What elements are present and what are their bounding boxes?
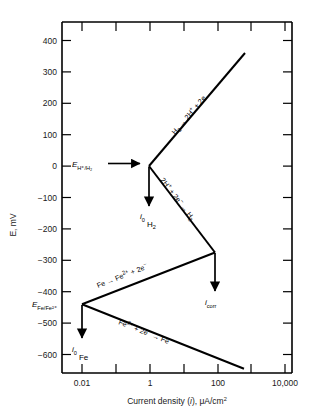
y-tick-label: −100 xyxy=(38,193,57,203)
y-tick-label: 200 xyxy=(43,98,57,108)
curve-label-h2-oxidation: H2 → 2H+ + 2e xyxy=(169,93,209,137)
x-axis-ticks xyxy=(82,364,285,373)
label-e-hydrogen: EH⁺/H₂ xyxy=(72,160,92,171)
curve-label-h2-reduction: 2H+ + 2e− → H2 xyxy=(158,175,198,223)
i0-h2-sub: 0 xyxy=(142,217,145,223)
curve-label-fe-oxidation: Fe → Fe2+ + 2e− xyxy=(95,261,149,290)
x-axis-title-main: Current density ( xyxy=(127,396,190,406)
y-tick-label: 300 xyxy=(43,67,57,77)
e-hydrogen-sub: H⁺/H₂ xyxy=(77,165,92,171)
x-tick-label: 100 xyxy=(211,378,225,388)
x-axis-title-sup: 2 xyxy=(224,396,227,402)
label-e-iron: EFe/Fe²⁺ xyxy=(32,300,57,311)
i0-h2-species-sub: 2 xyxy=(153,224,156,230)
polarization-plot-svg: 400 300 200 100 0 −100 −200 −300 −400 −5… xyxy=(0,0,310,417)
i0-fe-species: Fe xyxy=(79,353,89,362)
i0-fe-sub: 0 xyxy=(74,350,77,356)
label-i0-h2: i0H2 xyxy=(140,212,156,230)
y-tick-label: −400 xyxy=(38,287,57,297)
y-axis-ticks xyxy=(62,41,71,355)
y-tick-label: 0 xyxy=(52,161,57,171)
h2ox-arrow: → 2H xyxy=(175,109,195,130)
h2ox-tail: + 2e xyxy=(190,94,207,112)
y-tick-label: 400 xyxy=(43,36,57,46)
x-tick-labels: 0.01 1 100 10,000 xyxy=(74,378,299,388)
x-tick-label: 0.01 xyxy=(74,378,91,388)
x-axis-title: Current density (i), μA/cm2 xyxy=(127,396,227,406)
y-tick-label: −300 xyxy=(38,255,57,265)
feox-tsup: − xyxy=(142,261,147,268)
right-axis-ticks xyxy=(283,41,292,355)
x-tick-label: 1 xyxy=(148,378,153,388)
x-tick-label: 10,000 xyxy=(272,378,298,388)
x-axis-title-tail: ), μA/cm xyxy=(192,396,224,406)
evans-polarization-diagram: 400 300 200 100 0 −100 −200 −300 −400 −5… xyxy=(0,0,310,417)
y-tick-label: −600 xyxy=(38,350,57,360)
ferd-tail: → Fe xyxy=(149,330,171,346)
label-i0-fe: i0Fe xyxy=(72,345,89,362)
y-tick-labels: 400 300 200 100 0 −100 −200 −300 −400 −5… xyxy=(38,36,57,360)
top-axis-ticks xyxy=(82,22,285,31)
curve-label-fe-reduction: Fe2+ + 2e− → Fe xyxy=(117,317,171,346)
i-corr-sub: corr xyxy=(207,303,217,309)
label-i-corr: icorr xyxy=(205,298,217,309)
ferd-mid: + 2e xyxy=(131,323,149,337)
y-tick-label: −500 xyxy=(38,318,57,328)
y-tick-label: −200 xyxy=(38,224,57,234)
feox-base: Fe → Fe xyxy=(95,271,124,290)
e-iron-sub: Fe/Fe²⁺ xyxy=(37,305,56,311)
y-tick-label: 100 xyxy=(43,130,57,140)
y-axis-title: E, mV xyxy=(8,213,18,236)
